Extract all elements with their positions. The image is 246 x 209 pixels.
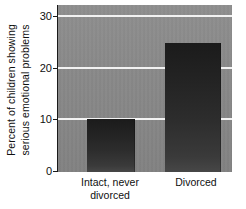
y-tick-label-10: 10 — [30, 114, 52, 125]
y-tick-label-0: 0 — [30, 166, 52, 177]
y-axis-tick-labels: 30 20 10 0 — [34, 0, 52, 209]
y-axis-title-line-1: Percent of children showing — [5, 24, 19, 156]
plot-area — [58, 5, 232, 172]
x-category-label-intact-line-1: Intact, never — [54, 176, 166, 189]
x-category-label-intact-line-2: divorced — [54, 189, 166, 202]
y-tick-label-20: 20 — [30, 63, 52, 74]
bar-intact-never-divorced — [87, 119, 135, 172]
x-category-label-divorced-line-1: Divorced — [158, 176, 234, 189]
bar-chart-figure: Percent of children showing serious emot… — [0, 0, 246, 209]
x-category-label-divorced: Divorced — [158, 176, 234, 189]
x-category-label-intact-never-divorced: Intact, never divorced — [54, 176, 166, 202]
gridline-30 — [58, 15, 232, 17]
y-axis-title: Percent of children showing serious emot… — [0, 0, 36, 180]
y-tick-label-30: 30 — [30, 11, 52, 22]
x-axis-category-labels: Intact, never divorced Divorced — [58, 176, 232, 209]
y-axis-title-line-2: serious emotional problems — [18, 24, 32, 156]
bar-divorced — [165, 43, 221, 172]
